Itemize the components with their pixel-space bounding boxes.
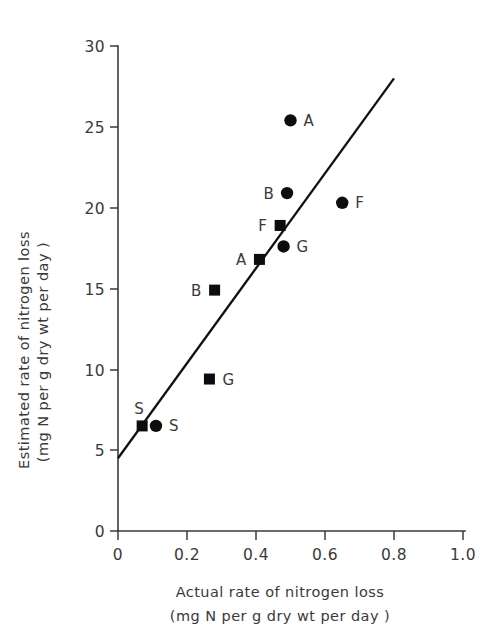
x-tick-label-02: 0.2: [174, 546, 200, 564]
regression-line: [118, 78, 394, 458]
point-label-square-G: G: [222, 371, 234, 389]
x-axis-title-line1: Actual rate of nitrogen loss: [176, 584, 385, 600]
data-point-circle-F: [336, 197, 348, 209]
y-axis-ticks: 0 5 10 15 20 25 30: [84, 38, 118, 541]
data-point-square-F: [275, 220, 286, 231]
point-label-square-A: A: [236, 251, 247, 269]
y-axis-title-line2: (mg N per g dry wt per day ): [35, 242, 51, 462]
data-point-square-B: [209, 285, 220, 296]
x-axis-title-line2: (mg N per g dry wt per day ): [170, 608, 390, 624]
point-label-square-B: B: [191, 282, 202, 300]
point-label-circle-A: A: [304, 112, 315, 130]
data-point-square-G: [204, 374, 215, 385]
x-axis-ticks: 0 0.2 0.4 0.6 0.8 1.0: [113, 531, 476, 564]
x-tick-label-04: 0.4: [243, 546, 269, 564]
x-axis-title: Actual rate of nitrogen loss (mg N per g…: [170, 584, 390, 624]
data-point-circle-B: [281, 187, 293, 199]
y-tick-label-30: 30: [84, 38, 105, 56]
x-tick-label-06: 0.6: [312, 546, 338, 564]
data-point-square-A: [254, 254, 265, 265]
figure-container: Estimated rate of nitrogen loss (mg N pe…: [0, 0, 497, 644]
x-tick-label-0: 0: [113, 546, 123, 564]
scatter-plot: Estimated rate of nitrogen loss (mg N pe…: [0, 0, 497, 644]
data-point-square-S: [137, 420, 148, 431]
data-point-circle-G: [277, 240, 289, 252]
point-label-circle-G: G: [297, 238, 309, 256]
point-label-circle-F: F: [355, 194, 364, 212]
point-label-circle-B: B: [263, 185, 274, 203]
y-tick-label-20: 20: [84, 200, 105, 218]
y-axis-title-line1: Estimated rate of nitrogen loss: [16, 231, 32, 469]
y-tick-label-10: 10: [84, 362, 105, 380]
point-label-square-S: S: [134, 400, 144, 418]
y-tick-label-15: 15: [84, 281, 105, 299]
point-label-square-F: F: [258, 217, 267, 235]
y-tick-label-5: 5: [95, 442, 105, 460]
data-point-circle-S: [150, 420, 162, 432]
point-label-circle-S: S: [169, 417, 179, 435]
y-tick-label-25: 25: [84, 119, 105, 137]
y-tick-label-0: 0: [95, 523, 105, 541]
x-tick-label-08: 0.8: [381, 546, 407, 564]
x-tick-label-10: 1.0: [450, 546, 476, 564]
data-point-circle-A: [284, 114, 296, 126]
y-axis-title: Estimated rate of nitrogen loss (mg N pe…: [16, 231, 51, 469]
